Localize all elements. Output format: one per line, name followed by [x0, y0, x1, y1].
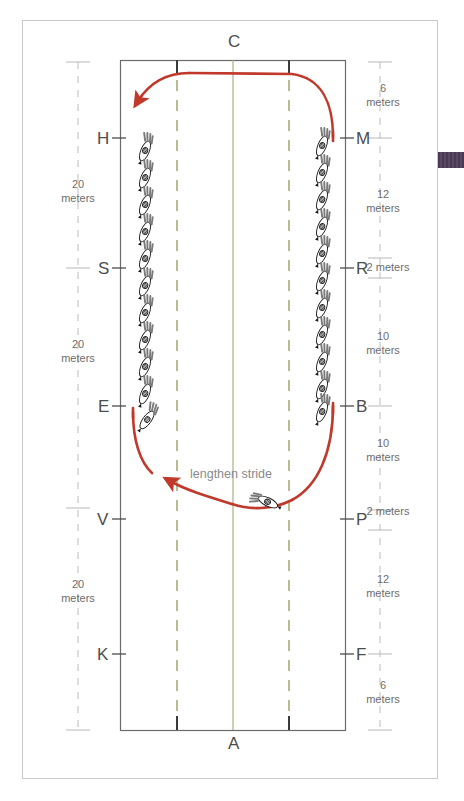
right-scale-segment-4-value: 10: [355, 330, 411, 342]
arena-letter-K: K: [97, 646, 108, 663]
page-tab-marker: [438, 152, 464, 168]
left-scale-segment-2-value: 20: [48, 338, 108, 350]
right-scale-segment-5-value: 10: [355, 437, 411, 449]
left-measure-scale: [66, 62, 90, 730]
right-scale-segment-5-unit: meters: [355, 451, 411, 463]
right-scale-segment-2-unit: meters: [355, 202, 411, 214]
right-scale-segment-7-value: 12: [355, 573, 411, 585]
left-scale-segment-1-value: 20: [48, 178, 108, 190]
right-scale-segment-3-value: 2 meters: [355, 261, 421, 273]
right-scale-segment-2-value: 12: [355, 188, 411, 200]
right-measure-scale: [368, 62, 392, 730]
right-scale-segment-8-unit: meters: [355, 693, 411, 705]
right-scale-segment-1-value: 6: [355, 82, 411, 94]
right-scale-segment-4-unit: meters: [355, 344, 411, 356]
lengthen-stride-label: lengthen stride: [190, 468, 272, 481]
arena-letter-F: F: [356, 646, 366, 663]
right-scale-segment-1-unit: meters: [355, 96, 411, 108]
left-scale-segment-2-unit: meters: [48, 352, 108, 364]
left-scale-segment-1-unit: meters: [48, 192, 108, 204]
page-tab-stripe: [438, 152, 464, 168]
arena-letter-C: C: [228, 33, 240, 50]
arena-letter-B: B: [356, 398, 367, 415]
left-scale-segment-3-unit: meters: [48, 592, 108, 604]
arena-letter-H: H: [97, 130, 109, 147]
arena-letter-M: M: [356, 130, 370, 147]
right-scale-segment-6-value: 2 meters: [355, 505, 421, 517]
right-scale-segment-8-value: 6: [355, 679, 411, 691]
arena-letter-A: A: [228, 735, 239, 752]
arena-letter-E: E: [98, 398, 109, 415]
left-scale-segment-3-value: 20: [48, 578, 108, 590]
arena-letter-V: V: [97, 511, 108, 528]
page-canvas: C A H S E V K M R B P F lengthen stride …: [0, 0, 464, 801]
right-scale-segment-7-unit: meters: [355, 587, 411, 599]
arena-letter-S: S: [98, 260, 109, 277]
